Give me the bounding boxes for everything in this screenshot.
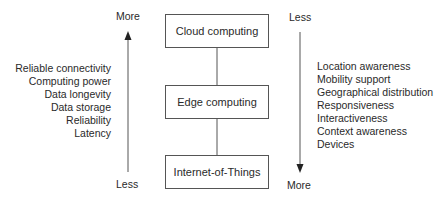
- left-bottom-label: Less: [116, 178, 138, 191]
- right-down-arrow-icon: [297, 32, 304, 173]
- right-property: Geographical distribution: [317, 86, 433, 99]
- right-property: Context awareness: [317, 125, 433, 138]
- right-property: Responsiveness: [317, 99, 433, 112]
- right-property: Mobility support: [317, 73, 433, 86]
- right-property: Location awareness: [317, 60, 433, 73]
- left-property: Data longevity: [15, 88, 111, 101]
- cloud-computing-box: Cloud computing: [165, 14, 269, 48]
- cloud-computing-label: Cloud computing: [176, 25, 259, 37]
- right-bottom-label: More: [287, 179, 311, 192]
- left-properties-list: Reliable connectivity Computing power Da…: [15, 62, 111, 140]
- left-property: Data storage: [15, 101, 111, 114]
- right-property: Interactiveness: [317, 112, 433, 125]
- edge-computing-box: Edge computing: [165, 85, 269, 119]
- right-properties-list: Location awareness Mobility support Geog…: [317, 60, 433, 151]
- right-property: Devices: [317, 138, 433, 151]
- left-property: Reliable connectivity: [15, 62, 111, 75]
- left-property: Latency: [15, 127, 111, 140]
- iot-label: Internet-of-Things: [174, 166, 261, 178]
- left-up-arrow-icon: [125, 31, 132, 172]
- edge-computing-label: Edge computing: [177, 96, 257, 108]
- iot-box: Internet-of-Things: [165, 155, 269, 189]
- left-property: Computing power: [15, 75, 111, 88]
- left-property: Reliability: [15, 114, 111, 127]
- left-top-label: More: [116, 10, 140, 23]
- right-top-label: Less: [289, 11, 311, 24]
